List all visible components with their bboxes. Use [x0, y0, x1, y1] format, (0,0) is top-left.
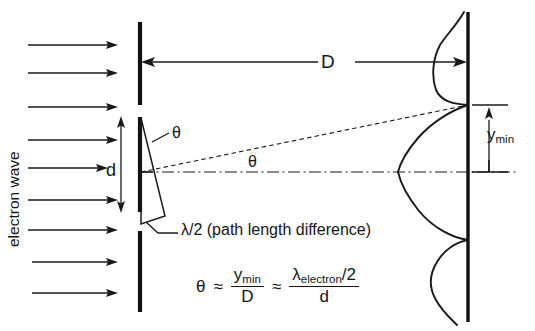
lambda-leader [146, 222, 178, 233]
frac1-num-sub: min [242, 273, 261, 285]
wave-arrow [28, 164, 108, 172]
slit-width-label-d: d [106, 161, 116, 179]
wave-arrow [28, 196, 118, 204]
slit-width-dimension [117, 116, 125, 213]
formula-approx-2: ≈ [271, 278, 282, 295]
wave-arrow [28, 41, 118, 49]
wave-arrow [28, 136, 118, 144]
diffraction-angle-formula: θ ≈ ymin D ≈ λelectron/2 d [196, 266, 359, 306]
wave-arrow [28, 69, 118, 77]
electron-wave-label: electron wave [6, 151, 22, 247]
screen-distance-dimension [141, 57, 467, 67]
theta-label-at-axis: θ [248, 154, 257, 170]
formula-fraction-ymin-over-D: ymin D [231, 266, 264, 306]
wave-arrow [32, 289, 118, 297]
wave-arrow [28, 103, 118, 111]
path-length-difference-note: λ/2 (path length difference) [181, 222, 371, 238]
formula-frac1-denominator: D [238, 287, 256, 306]
formula-fraction-lambda-over-d: λelectron/2 d [289, 266, 359, 306]
frac2-num-base: λ [292, 265, 301, 284]
theta-slit-leader [152, 133, 169, 142]
ymin-subscript: min [496, 133, 515, 145]
ymin-label: ymin [487, 126, 514, 145]
formula-frac2-denominator: d [316, 287, 331, 306]
formula-approx-1: ≈ [212, 278, 223, 295]
distance-label-D: D [321, 52, 335, 71]
incoming-wave-arrows [28, 41, 118, 297]
theta-label-at-slit: θ [172, 125, 181, 141]
formula-theta: θ [196, 278, 205, 295]
wave-arrow [32, 258, 118, 266]
ymin-base: y [487, 125, 496, 144]
formula-frac1-numerator: ymin [231, 266, 264, 287]
diffraction-figure: electron wave D d θ θ ymin λ/2 (path len… [0, 0, 535, 331]
frac2-num-sub: electron [301, 273, 342, 285]
formula-frac2-numerator: λelectron/2 [289, 266, 359, 287]
frac2-num-tail: /2 [342, 265, 356, 284]
wave-arrow [28, 226, 118, 234]
diffracted-ray-to-first-minimum [141, 105, 468, 172]
